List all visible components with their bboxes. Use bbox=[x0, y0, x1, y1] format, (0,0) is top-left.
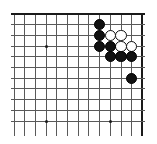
grid-line-vertical bbox=[78, 13, 79, 136]
go-board-diagram bbox=[0, 0, 157, 144]
hoshi-star-point bbox=[109, 120, 112, 123]
goban-grid bbox=[0, 0, 157, 144]
white-stone bbox=[115, 30, 126, 41]
black-stone bbox=[115, 51, 126, 62]
grid-line-horizontal bbox=[11, 88, 145, 89]
black-stone bbox=[94, 30, 105, 41]
white-stone bbox=[126, 41, 137, 52]
white-stone bbox=[115, 41, 126, 52]
grid-line-vertical bbox=[67, 13, 68, 136]
grid-line-vertical bbox=[24, 13, 25, 136]
grid-line-horizontal bbox=[11, 121, 145, 122]
grid-line-vertical bbox=[56, 13, 57, 136]
grid-line-horizontal bbox=[11, 67, 145, 68]
black-stone bbox=[126, 73, 137, 84]
white-stone bbox=[105, 30, 116, 41]
grid-line-vertical bbox=[14, 13, 15, 136]
hoshi-star-point bbox=[45, 120, 48, 123]
board-edge-line-vertical bbox=[141, 13, 143, 136]
black-stone bbox=[94, 19, 105, 30]
grid-line-horizontal bbox=[11, 99, 145, 100]
grid-line-horizontal bbox=[11, 110, 145, 111]
black-stone bbox=[105, 41, 116, 52]
grid-line-vertical bbox=[35, 13, 36, 136]
black-stone bbox=[126, 51, 137, 62]
grid-line-horizontal bbox=[11, 24, 145, 25]
hoshi-star-point bbox=[45, 45, 48, 48]
board-edge-line-horizontal bbox=[11, 13, 145, 15]
black-stone bbox=[105, 51, 116, 62]
grid-line-vertical bbox=[88, 13, 89, 136]
grid-line-vertical bbox=[46, 13, 47, 136]
black-stone bbox=[94, 41, 105, 52]
